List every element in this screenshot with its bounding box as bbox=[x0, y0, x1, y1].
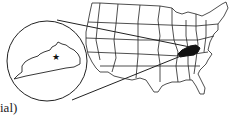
us-outline bbox=[86, 2, 228, 94]
us-map: ★ bbox=[0, 0, 232, 118]
star-icon: ★ bbox=[52, 52, 60, 62]
inset-circle bbox=[7, 21, 87, 101]
map-figure: ★ ial) bbox=[0, 0, 232, 118]
caption-fragment: ial) bbox=[0, 101, 17, 115]
